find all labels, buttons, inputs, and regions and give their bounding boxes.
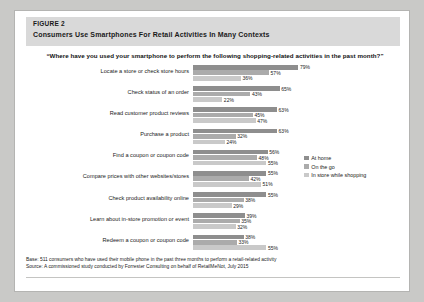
bar	[193, 182, 261, 187]
bar	[193, 70, 269, 75]
bar	[193, 176, 249, 181]
category-label: Check status of an order	[39, 89, 189, 95]
bar-value-label: 32%	[236, 133, 248, 139]
bar-value-label: 65%	[280, 86, 292, 92]
bar	[193, 198, 244, 203]
bar-value-label: 38%	[244, 197, 256, 203]
bottom-divider	[26, 277, 400, 278]
legend-label: In store while shopping	[311, 172, 366, 178]
bar-value-label: 29%	[232, 203, 244, 209]
bar	[193, 245, 266, 250]
bar-group: Purchase a product63%32%24%	[15, 127, 411, 148]
legend-item: On the go	[304, 164, 366, 170]
bar	[193, 192, 266, 197]
bar-value-label: 55%	[266, 245, 278, 251]
category-label: Learn about in-store promotion or event	[39, 216, 189, 222]
bar-value-label: 43%	[250, 91, 262, 97]
bar	[193, 65, 298, 70]
figure-number: FIGURE 2	[33, 20, 65, 27]
bar-value-label: 63%	[277, 128, 289, 134]
bar-value-label: 47%	[256, 118, 268, 124]
survey-question: “Where have you used your smartphone to …	[35, 52, 395, 59]
bar	[193, 150, 268, 155]
bar	[193, 161, 266, 166]
bar	[193, 129, 277, 134]
bar	[193, 92, 250, 97]
bar	[193, 235, 244, 240]
bar	[193, 113, 253, 118]
bar-value-label: 24%	[225, 139, 237, 145]
bar-value-label: 36%	[241, 75, 253, 81]
legend-swatch-icon	[304, 156, 309, 161]
figure-footnotes: Base: 511 consumers who have used their …	[26, 257, 400, 272]
bar	[193, 213, 245, 218]
bar-group: Locate a store or check store hours79%57…	[15, 63, 411, 84]
bar-value-label: 79%	[298, 64, 310, 70]
bar-value-label: 55%	[266, 192, 278, 198]
legend-item: In store while shopping	[304, 172, 366, 178]
category-label: Compare prices with other websites/store…	[39, 173, 189, 179]
chart-legend: At homeOn the goIn store while shopping	[304, 155, 366, 181]
bar	[193, 118, 256, 123]
bar-group: Learn about in-store promotion or event3…	[15, 211, 411, 232]
category-label: Check product availability online	[39, 195, 189, 201]
legend-label: On the go	[311, 164, 335, 170]
bar-value-label: 57%	[269, 70, 281, 76]
bar	[193, 140, 225, 145]
figure-title: Consumers Use Smartphones For Retail Act…	[33, 31, 270, 38]
bar	[193, 76, 241, 81]
bar	[193, 97, 222, 102]
legend-label: At home	[311, 155, 331, 161]
bar	[193, 134, 236, 139]
category-label: Read customer product reviews	[39, 110, 189, 116]
bar-value-label: 55%	[266, 170, 278, 176]
bar-value-label: 22%	[222, 97, 234, 103]
bar-group: Read customer product reviews63%45%47%	[15, 105, 411, 126]
bar-value-label: 63%	[277, 107, 289, 113]
bar-group: Check status of an order65%43%22%	[15, 84, 411, 105]
category-label: Purchase a product	[39, 131, 189, 137]
bar	[193, 155, 257, 160]
legend-item: At home	[304, 155, 366, 161]
category-label: Locate a store or check store hours	[39, 68, 189, 74]
bar-value-label: 51%	[261, 181, 273, 187]
bar-value-label: 56%	[268, 149, 280, 155]
legend-swatch-icon	[304, 164, 309, 169]
bar	[193, 219, 240, 224]
bar-value-label: 55%	[266, 160, 278, 166]
figure-header-band: FIGURE 2 Consumers Use Smartphones For R…	[26, 17, 400, 46]
bar	[193, 240, 237, 245]
bar	[193, 224, 236, 229]
figure-card: FIGURE 2 Consumers Use Smartphones For R…	[14, 10, 410, 292]
bar	[193, 171, 266, 176]
footnote-base: Base: 511 consumers who have used their …	[26, 257, 400, 262]
legend-swatch-icon	[304, 173, 309, 178]
bar	[193, 203, 232, 208]
bar-value-label: 32%	[236, 224, 248, 230]
category-label: Find a coupon or coupon code	[39, 152, 189, 158]
bar-group: Check product availability online55%38%2…	[15, 190, 411, 211]
category-label: Redeem a coupon or coupon code	[39, 237, 189, 243]
bar	[193, 107, 277, 112]
footnote-source: Source: A commissioned study conducted b…	[26, 264, 400, 269]
bar	[193, 86, 280, 91]
bar-group: Redeem a coupon or coupon code38%33%55%	[15, 233, 411, 254]
